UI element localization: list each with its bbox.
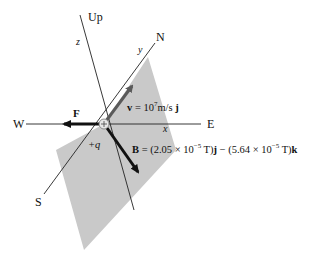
label-field: B = (2.05 × 10−5 T)j − (5.64 × 10−5 T)k — [132, 143, 297, 155]
label-up: Up — [88, 11, 103, 23]
label-west: W — [13, 118, 24, 130]
velocity-dir: j — [175, 102, 179, 113]
label-z-axis: z — [76, 37, 80, 47]
label-y-axis: y — [138, 45, 142, 55]
label-force: F — [73, 108, 80, 119]
field-end: T) — [279, 144, 291, 155]
label-south: S — [35, 196, 42, 208]
field-minus: − (5.64 × 10 — [217, 144, 272, 155]
label-velocity: v = 107m/s j — [127, 101, 179, 113]
label-east: E — [207, 118, 214, 130]
label-x-axis: x — [163, 124, 167, 134]
field-symbol: B — [132, 144, 139, 155]
field-eq: = (2.05 × 10 — [139, 144, 194, 155]
velocity-eq: = 10 — [132, 102, 154, 113]
field-mid: T) — [201, 144, 213, 155]
velocity-unit: m/s — [157, 102, 175, 113]
label-north: N — [156, 31, 165, 43]
label-charge: +q — [88, 140, 100, 151]
field-dir2: k — [292, 144, 298, 155]
